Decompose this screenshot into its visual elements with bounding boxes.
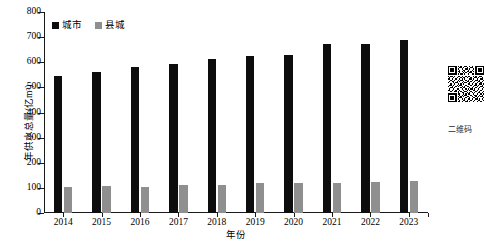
- x-tick-label: 2018: [207, 218, 226, 228]
- bar-county[interactable]: [179, 185, 188, 213]
- bar-group: 2017: [159, 12, 197, 213]
- bar-city[interactable]: [131, 67, 140, 213]
- plot-frame: 0100200300400500600700800 20142015201620…: [44, 12, 428, 213]
- x-tick-label: 2023: [399, 218, 418, 228]
- y-tick-label: 300: [27, 133, 41, 143]
- y-tick-label: 0: [36, 208, 41, 218]
- bar-county[interactable]: [294, 183, 303, 213]
- bar-group: 2021: [313, 12, 351, 213]
- bar-group: 2016: [121, 12, 159, 213]
- legend-swatch-icon: [52, 22, 59, 29]
- legend-label: 城市: [62, 21, 82, 31]
- x-tick-label: 2022: [361, 218, 380, 228]
- x-tick-label: 2021: [322, 218, 341, 228]
- x-tick-label: 2017: [169, 218, 188, 228]
- bar-group: 2018: [198, 12, 236, 213]
- x-tick-label: 2016: [130, 218, 149, 228]
- bar-city[interactable]: [284, 55, 293, 213]
- bar-group: 2023: [390, 12, 428, 213]
- x-tick-label: 2019: [246, 218, 265, 228]
- bar-city[interactable]: [361, 44, 370, 213]
- y-tick-label: 500: [27, 83, 41, 93]
- bar-county[interactable]: [371, 182, 380, 213]
- bar-county[interactable]: [102, 186, 111, 213]
- bar-group: 2022: [351, 12, 389, 213]
- y-tick-label: 700: [27, 32, 41, 42]
- x-tick-label: 2014: [54, 218, 73, 228]
- legend-swatch-icon: [95, 22, 102, 29]
- y-tick-label: 600: [27, 58, 41, 68]
- y-tick-label: 400: [27, 108, 41, 118]
- qr-code-block: 二维码: [448, 66, 484, 134]
- bar-city[interactable]: [54, 76, 63, 213]
- legend-item[interactable]: 城市: [52, 21, 82, 31]
- bar-county[interactable]: [218, 185, 227, 213]
- x-axis-title: 年份: [44, 231, 428, 241]
- bar-county[interactable]: [410, 181, 419, 213]
- x-tick-label: 2015: [92, 218, 111, 228]
- bar-city[interactable]: [246, 56, 255, 213]
- y-tick-label: 200: [27, 158, 41, 168]
- y-tick-label: 800: [27, 7, 41, 17]
- bar-city[interactable]: [323, 44, 332, 213]
- bar-group: 2014: [44, 12, 82, 213]
- bar-county[interactable]: [141, 187, 150, 213]
- chart-legend: 城市县城: [52, 21, 125, 31]
- bar-county[interactable]: [64, 187, 73, 213]
- bar-group: 2019: [236, 12, 274, 213]
- bar-city[interactable]: [169, 64, 178, 213]
- bar-group: 2020: [274, 12, 312, 213]
- bar-group: 2015: [82, 12, 120, 213]
- x-tick-label: 2020: [284, 218, 303, 228]
- x-tick-mark-end: [428, 213, 429, 217]
- bar-county[interactable]: [333, 183, 342, 213]
- bar-city[interactable]: [400, 40, 409, 213]
- qr-code-icon[interactable]: [448, 66, 484, 102]
- bar-city[interactable]: [208, 59, 217, 213]
- legend-item[interactable]: 县城: [95, 21, 125, 31]
- bar-city[interactable]: [92, 72, 101, 213]
- figure-container: 年供水总量(亿m³) 0100200300400500600700800 201…: [0, 0, 484, 247]
- bar-county[interactable]: [256, 183, 265, 213]
- y-tick-label: 100: [27, 183, 41, 193]
- plot-area: 0100200300400500600700800 20142015201620…: [44, 12, 428, 213]
- legend-label: 县城: [105, 21, 125, 31]
- qr-code-caption: 二维码: [448, 126, 484, 134]
